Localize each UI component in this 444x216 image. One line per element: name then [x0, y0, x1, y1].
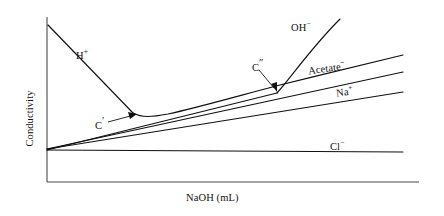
plot-canvas: [0, 0, 444, 216]
series-curve-c-prime: [133, 55, 403, 117]
series-line-c-double-prime: [47, 93, 277, 150]
series-label-h-plus-text: H: [76, 50, 84, 61]
c-double-prime-leader-line: [259, 70, 274, 88]
series-label-c-double-prime-mark: ″: [259, 57, 263, 68]
c-prime-arrowhead: [128, 112, 137, 119]
y-axis-title: Conductivity: [24, 69, 35, 169]
series-label-cl-minus-text: Cl: [330, 141, 340, 152]
series-label-na-plus-charge: +: [348, 83, 353, 92]
series-line-h-plus: [48, 25, 133, 113]
conductivity-titration-figure: H+ OH− C′ C″ Acetate− Na+ Cl− NaOH (mL) …: [0, 0, 444, 216]
series-line-cl-minus: [47, 150, 403, 152]
series-label-cl-minus-charge: −: [340, 138, 344, 147]
series-label-h-plus-charge: +: [84, 47, 88, 56]
series-label-oh-minus-text: OH: [291, 22, 306, 33]
series-label-cl-minus: Cl−: [330, 138, 344, 152]
series-label-c-double-prime: C″: [252, 57, 263, 73]
series-label-c-prime-mark: ′: [102, 115, 104, 126]
series-label-oh-minus: OH−: [291, 19, 311, 33]
series-label-oh-minus-charge: −: [306, 19, 310, 28]
series-label-c-prime: C′: [95, 115, 104, 131]
series-label-h-plus: H+: [76, 47, 88, 61]
x-axis-title: NaOH (mL): [186, 192, 239, 203]
series-label-na-plus: Na+: [335, 83, 353, 98]
